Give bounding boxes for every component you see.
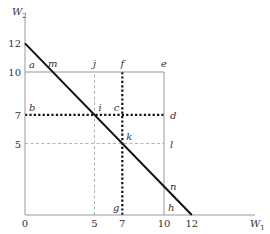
point-label-i: i [99, 102, 102, 113]
origin-label: 0 [22, 218, 28, 229]
point-label-h: h [168, 202, 174, 213]
budget-line [25, 43, 192, 215]
point-label-f: f [119, 58, 126, 69]
point-label-b: b [29, 102, 35, 113]
point-label-d: d [170, 110, 176, 121]
y-tick-label: 7 [15, 110, 21, 121]
point-label-g: g [113, 202, 119, 213]
x-tick-label: 12 [185, 218, 198, 229]
point-label-m: m [48, 58, 57, 69]
point-label-l: l [170, 139, 173, 150]
x-tick-label: 10 [158, 218, 171, 229]
point-label-k: k [126, 131, 132, 142]
point-label-c: c [114, 102, 120, 113]
y-axis-label: W2 [12, 6, 27, 20]
x-axis-label: W1 [250, 218, 265, 232]
y-tick-label: 10 [8, 67, 21, 78]
point-label-e: e [161, 58, 167, 69]
point-label-a: a [29, 59, 35, 70]
x-tick-label: 5 [91, 218, 97, 229]
y-tick-label: 5 [15, 139, 21, 150]
x-tick-label: 7 [119, 218, 125, 229]
point-label-j: j [91, 58, 96, 69]
point-label-n: n [170, 181, 176, 192]
edgeworth-diagram: 571012121075 amjfebicdklngh W2 W1 0 [0, 0, 270, 234]
y-tick-label: 12 [8, 38, 21, 49]
